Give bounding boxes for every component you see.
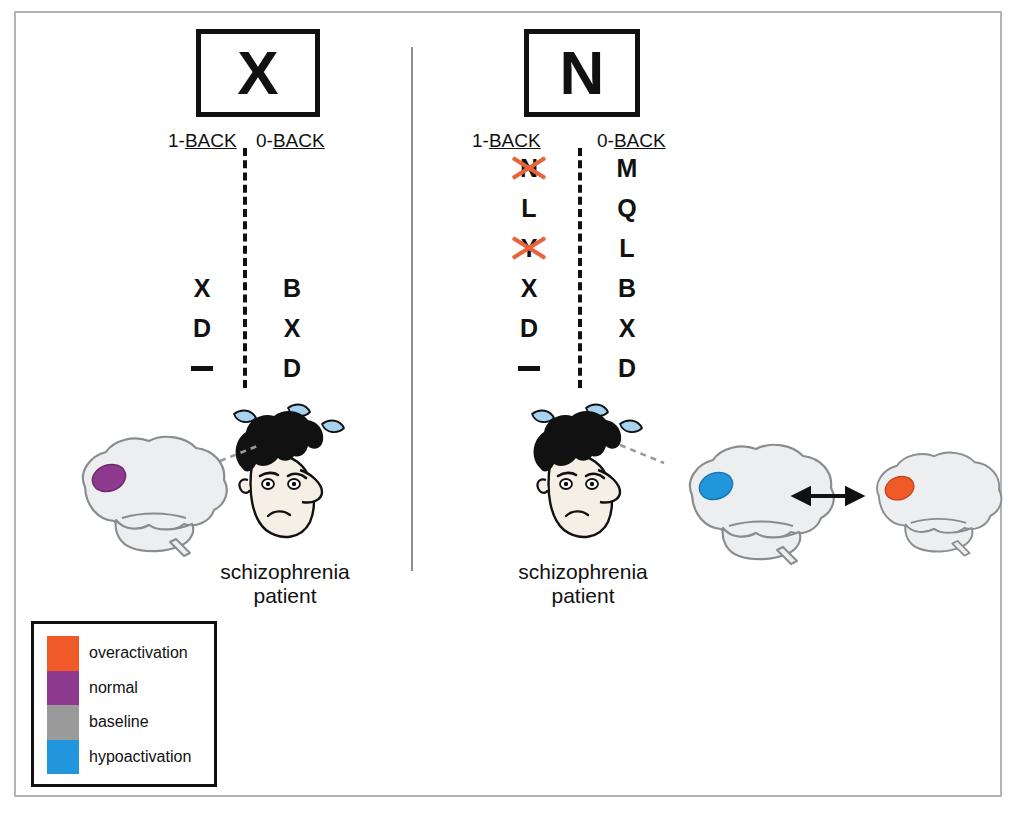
letter-cell: D (610, 348, 644, 388)
column-separator-left (243, 148, 247, 388)
letter-stream-1back-left: X D (185, 148, 219, 388)
caption-line-2: patient (180, 584, 390, 608)
letter-cell: L (512, 188, 546, 228)
letter-cell-dash (185, 348, 219, 388)
letter-cell: D (512, 308, 546, 348)
legend-swatch-normal (47, 671, 79, 706)
letter-cell-struck: N (512, 148, 546, 188)
column-header-prefix: 0- (256, 130, 273, 151)
stimulus-box-right: N (524, 29, 640, 117)
letter-cell: D (275, 348, 309, 388)
caption-line-2: patient (478, 584, 688, 608)
legend-label: baseline (89, 705, 213, 740)
column-separator-right (578, 148, 582, 388)
letter-cell: B (610, 268, 644, 308)
letter-cell (185, 148, 219, 188)
letter-cell (185, 188, 219, 228)
legend-label-list: overactivation normal baseline hypoactiv… (89, 636, 213, 774)
stimulus-box-left: X (196, 29, 320, 117)
legend-swatch-baseline (47, 705, 79, 740)
legend-box: overactivation normal baseline hypoactiv… (31, 621, 217, 787)
column-header-prefix: 1- (168, 130, 185, 151)
legend-label: hypoactivation (89, 740, 213, 775)
letter-cell-struck: Y (512, 228, 546, 268)
patient-head-right (524, 396, 656, 546)
legend-swatch-hypoactivation (47, 740, 79, 775)
legend-label: normal (89, 671, 213, 706)
caption-right: schizophrenia patient (478, 560, 688, 608)
column-header-prefix: 1- (472, 130, 489, 151)
letter-cell (275, 148, 309, 188)
thought-connector-left (218, 443, 262, 465)
panel-divider (411, 47, 413, 571)
letter-stream-0back-left: B X D (275, 148, 309, 388)
letter-cell: X (512, 268, 546, 308)
letter-cell: X (610, 308, 644, 348)
stimulus-letter-right: N (560, 42, 605, 104)
letter-cell: M (610, 148, 644, 188)
letter-cell (185, 228, 219, 268)
brain-normal-left (54, 432, 239, 557)
legend-swatch-overactivation (47, 636, 79, 671)
caption-line-1: schizophrenia (180, 560, 390, 584)
patient-head-left (226, 396, 358, 546)
legend-color-strip (47, 636, 79, 774)
letter-cell: L (610, 228, 644, 268)
brain-overactivation (852, 440, 1012, 565)
letter-cell: X (185, 268, 219, 308)
letter-cell: X (275, 308, 309, 348)
letter-stream-1back-right: N L Y X D (512, 148, 546, 388)
letter-cell (275, 228, 309, 268)
figure-canvas: X 1-BACK 0-BACK X D B X D (0, 0, 1017, 819)
thought-connector-right (618, 443, 666, 467)
stimulus-letter-left: X (237, 42, 278, 104)
letter-cell: D (185, 308, 219, 348)
caption-left: schizophrenia patient (180, 560, 390, 608)
letter-cell-dash (512, 348, 546, 388)
letter-stream-0back-right: M Q L B X D (610, 148, 644, 388)
letter-cell: Q (610, 188, 644, 228)
legend-label: overactivation (89, 636, 213, 671)
letter-cell: B (275, 268, 309, 308)
letter-cell (275, 188, 309, 228)
caption-line-1: schizophrenia (478, 560, 688, 584)
